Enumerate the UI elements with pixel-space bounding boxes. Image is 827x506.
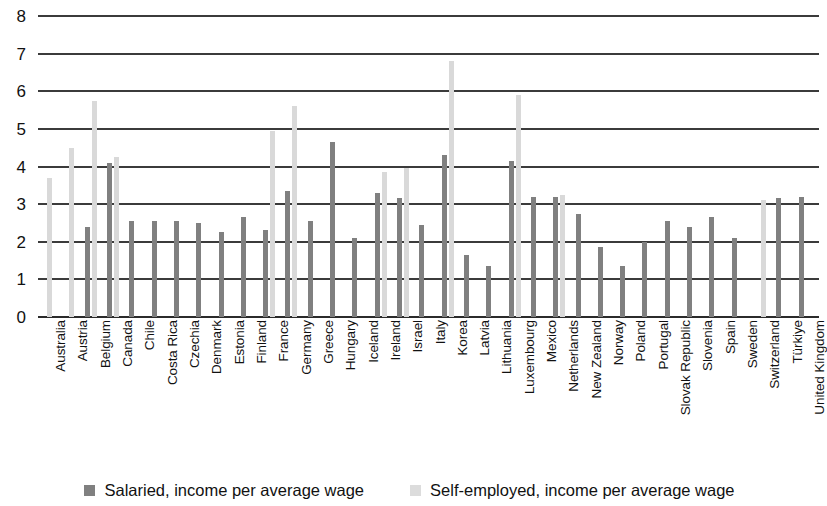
- bar-salaried: [776, 198, 781, 317]
- x-axis-tick-label: Costa Rica: [166, 320, 180, 385]
- bar-salaried: [107, 163, 112, 317]
- plot-area: [38, 16, 819, 317]
- legend-item[interactable]: Self-employed, income per average wage: [410, 482, 735, 499]
- bars-layer: [38, 16, 819, 317]
- x-axis-tick-label: Iceland: [367, 320, 381, 363]
- bar-group: [172, 16, 194, 317]
- chart-legend: Salaried, income per average wageSelf-em…: [0, 474, 819, 506]
- bar-group: [283, 16, 305, 317]
- bar-self-employed: [47, 178, 52, 317]
- bar-self-employed: [449, 61, 454, 317]
- y-axis-tick-label: 0: [17, 309, 26, 326]
- bar-group: [529, 16, 551, 317]
- y-axis-tick-label: 7: [17, 45, 26, 62]
- x-axis-tick-label: France: [277, 320, 291, 361]
- bar-group: [373, 16, 395, 317]
- bar-salaried: [85, 227, 90, 317]
- x-axis-tick-label: Korea: [456, 320, 470, 356]
- bar-salaried: [709, 217, 714, 317]
- x-axis-tick-label: Slovak Republic: [679, 320, 693, 415]
- x-axis-tick-label: United Kingdom: [813, 320, 827, 415]
- bar-salaried: [308, 221, 313, 317]
- x-axis-tick-label: Switzerland: [768, 320, 782, 389]
- bar-group: [551, 16, 573, 317]
- legend-item[interactable]: Salaried, income per average wage: [84, 482, 364, 499]
- bar-self-employed: [92, 101, 97, 317]
- bar-salaried: [665, 221, 670, 317]
- x-axis-tick-label: Türkiye: [791, 320, 805, 364]
- bar-group: [730, 16, 752, 317]
- legend-label: Self-employed, income per average wage: [430, 482, 735, 499]
- x-axis-tick-label: Norway: [612, 320, 626, 365]
- bar-group: [574, 16, 596, 317]
- y-axis-tick-label: 4: [17, 158, 26, 175]
- x-axis-tick-label: Austria: [76, 320, 90, 361]
- legend-swatch-icon: [84, 485, 95, 496]
- x-axis-tick-label: Latvia: [478, 320, 492, 355]
- bar-self-employed: [114, 157, 119, 317]
- bar-group: [350, 16, 372, 317]
- x-axis-tick-label: Germany: [300, 320, 314, 375]
- bar-salaried: [464, 255, 469, 317]
- bar-salaried: [174, 221, 179, 317]
- bar-salaried: [732, 238, 737, 317]
- bar-self-employed: [292, 106, 297, 317]
- x-axis-tick-label: Italy: [434, 320, 448, 344]
- x-axis-tick-label: Hungary: [344, 320, 358, 370]
- bar-group: [797, 16, 819, 317]
- y-axis-tick-label: 3: [17, 196, 26, 213]
- bar-salaried: [419, 225, 424, 317]
- x-axis-tick-label: Portugal: [657, 320, 671, 369]
- bar-group: [462, 16, 484, 317]
- x-axis-tick-label: Chile: [143, 320, 157, 350]
- bar-group: [596, 16, 618, 317]
- legend-swatch-icon: [410, 485, 421, 496]
- x-axis-tick-label: Greece: [322, 320, 336, 364]
- bar-salaried: [687, 227, 692, 317]
- bar-salaried: [285, 191, 290, 317]
- bar-group: [150, 16, 172, 317]
- bar-group: [194, 16, 216, 317]
- x-axis-tick-label: Belgium: [99, 320, 113, 368]
- bar-salaried: [196, 223, 201, 317]
- bar-group: [60, 16, 82, 317]
- bar-self-employed: [516, 95, 521, 317]
- bar-salaried: [129, 221, 134, 317]
- y-axis-tick-label: 2: [17, 233, 26, 250]
- bar-salaried: [397, 198, 402, 317]
- bar-salaried: [509, 161, 514, 317]
- bar-salaried: [642, 242, 647, 317]
- bar-salaried: [241, 217, 246, 317]
- bar-self-employed: [404, 168, 409, 317]
- x-axis-labels: AustraliaAustriaBelgiumCanadaChileCosta …: [38, 320, 819, 470]
- bar-group: [507, 16, 529, 317]
- bar-salaried: [620, 266, 625, 317]
- x-axis-tick-label: Mexico: [545, 320, 559, 362]
- y-axis-tick-label: 1: [17, 271, 26, 288]
- x-axis-tick-label: Australia: [54, 320, 68, 372]
- bar-self-employed: [69, 148, 74, 317]
- y-axis-tick-label: 5: [17, 120, 26, 137]
- bar-self-employed: [560, 195, 565, 317]
- bar-group: [417, 16, 439, 317]
- x-axis-tick-label: Ireland: [389, 320, 403, 361]
- x-axis-tick-label: Slovenia: [701, 320, 715, 371]
- bar-group: [217, 16, 239, 317]
- y-axis-tick-label: 6: [17, 83, 26, 100]
- bar-group: [640, 16, 662, 317]
- bar-group: [685, 16, 707, 317]
- bar-salaried: [531, 197, 536, 317]
- bar-group: [707, 16, 729, 317]
- bar-salaried: [219, 232, 224, 317]
- legend-label: Salaried, income per average wage: [104, 482, 364, 499]
- bar-group: [239, 16, 261, 317]
- bar-group: [663, 16, 685, 317]
- bar-self-employed: [382, 172, 387, 317]
- x-axis-tick-label: Estonia: [233, 320, 247, 364]
- x-axis-tick-label: Spain: [724, 320, 738, 354]
- bar-group: [328, 16, 350, 317]
- bar-self-employed: [270, 131, 275, 317]
- x-axis-tick-label: Netherlands: [567, 320, 581, 392]
- bar-salaried: [375, 193, 380, 317]
